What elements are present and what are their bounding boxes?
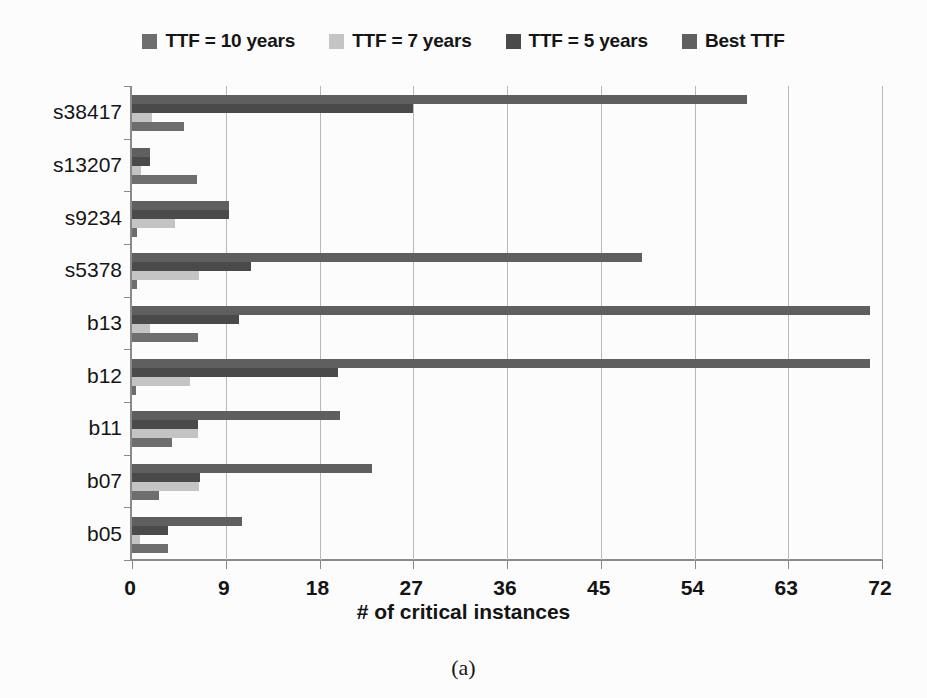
x-tick-mark <box>320 561 321 569</box>
bar <box>132 333 198 342</box>
x-axis-tick-label: 27 <box>400 576 423 600</box>
legend-item: TTF = 10 years <box>142 30 295 52</box>
x-axis-tick-label: 9 <box>218 576 230 600</box>
y-axis-tick-label: b05 <box>7 522 122 546</box>
y-axis-tick-label: b12 <box>7 364 122 388</box>
figure-panel: TTF = 10 yearsTTF = 7 yearsTTF = 5 years… <box>0 0 927 698</box>
bar <box>132 210 229 219</box>
bar <box>132 438 172 447</box>
bar <box>132 526 168 535</box>
legend-item-label: TTF = 10 years <box>165 30 295 52</box>
bar <box>132 544 168 553</box>
y-tick-mark <box>124 507 132 508</box>
x-axis-tick-label: 72 <box>868 576 891 600</box>
x-gridline <box>413 86 414 560</box>
legend-swatch-icon <box>682 34 697 49</box>
y-tick-mark <box>124 402 132 403</box>
y-axis-tick-label: s5378 <box>7 258 122 282</box>
x-gridline <box>695 86 696 560</box>
y-tick-mark <box>124 349 132 350</box>
x-gridline <box>788 86 789 560</box>
y-axis-tick-label: b11 <box>7 416 122 440</box>
x-axis-tick-label: 0 <box>124 576 136 600</box>
x-tick-mark <box>788 561 789 569</box>
legend-swatch-icon <box>329 34 344 49</box>
plot-area-wrapper: s38417s13207s9234s5378b13b12b11b07b05 09… <box>0 78 927 568</box>
chart-legend: TTF = 10 yearsTTF = 7 yearsTTF = 5 years… <box>0 30 927 52</box>
bar <box>132 306 870 315</box>
bar <box>132 535 140 544</box>
x-gridline <box>882 86 883 560</box>
bar <box>132 324 150 333</box>
bar <box>132 113 152 122</box>
x-axis-tick-label: 45 <box>587 576 610 600</box>
legend-item: TTF = 7 years <box>329 30 471 52</box>
bar <box>132 411 340 420</box>
bar <box>132 166 141 175</box>
y-tick-mark <box>124 244 132 245</box>
bar <box>132 491 159 500</box>
x-gridline <box>320 86 321 560</box>
x-tick-mark <box>132 561 133 569</box>
x-gridline <box>507 86 508 560</box>
y-tick-mark <box>124 191 132 192</box>
bar <box>132 464 372 473</box>
x-axis-tick-label: 18 <box>306 576 329 600</box>
x-tick-mark <box>882 561 883 569</box>
x-tick-mark <box>413 561 414 569</box>
legend-item-label: Best TTF <box>705 30 785 52</box>
bar <box>132 420 198 429</box>
x-tick-mark <box>601 561 602 569</box>
legend-item: Best TTF <box>682 30 785 52</box>
bar <box>132 157 150 166</box>
legend-item-label: TTF = 7 years <box>352 30 471 52</box>
bar <box>132 377 190 386</box>
bar <box>132 253 642 262</box>
legend-swatch-icon <box>142 34 157 49</box>
x-axis-title: # of critical instances <box>0 600 927 624</box>
bar <box>132 482 199 491</box>
y-tick-mark <box>124 455 132 456</box>
y-axis-tick-label: b07 <box>7 469 122 493</box>
x-axis-tick-label: 54 <box>681 576 704 600</box>
y-axis-labels: s38417s13207s9234s5378b13b12b11b07b05 <box>0 86 122 560</box>
bar <box>132 473 200 482</box>
x-tick-mark <box>507 561 508 569</box>
y-tick-mark <box>124 560 132 561</box>
x-axis-tick-label: 63 <box>775 576 798 600</box>
y-axis-tick-label: s38417 <box>7 100 122 124</box>
bar <box>132 368 338 377</box>
legend-item: TTF = 5 years <box>506 30 648 52</box>
bar <box>132 122 184 131</box>
bar <box>132 429 198 438</box>
bar <box>132 201 229 210</box>
bar <box>132 175 197 184</box>
x-tick-mark <box>226 561 227 569</box>
bar <box>132 315 239 324</box>
bar <box>132 95 747 104</box>
y-axis-tick-label: s13207 <box>7 153 122 177</box>
legend-item-label: TTF = 5 years <box>529 30 648 52</box>
bar <box>132 517 242 526</box>
bar <box>132 280 137 289</box>
bar <box>132 271 199 280</box>
bar <box>132 228 137 237</box>
bar <box>132 148 150 157</box>
bar <box>132 104 413 113</box>
figure-caption: (a) <box>0 655 927 681</box>
bar <box>132 386 136 395</box>
y-axis-tick-label: b13 <box>7 311 122 335</box>
x-gridline <box>601 86 602 560</box>
legend-swatch-icon <box>506 34 521 49</box>
bar <box>132 359 870 368</box>
y-axis-tick-label: s9234 <box>7 206 122 230</box>
x-tick-mark <box>695 561 696 569</box>
bar <box>132 219 175 228</box>
y-tick-mark <box>124 86 132 87</box>
y-tick-mark <box>124 297 132 298</box>
x-axis-tick-label: 36 <box>493 576 516 600</box>
bar <box>132 262 251 271</box>
plot-area <box>130 86 882 560</box>
y-tick-mark <box>124 139 132 140</box>
